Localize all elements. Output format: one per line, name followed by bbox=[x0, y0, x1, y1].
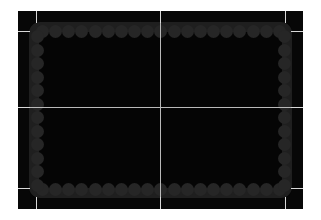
tick-top-left bbox=[36, 11, 37, 23]
simulation-viewport bbox=[0, 0, 321, 220]
tick-left-middle bbox=[18, 107, 30, 108]
tick-top-right bbox=[285, 11, 286, 23]
tick-top-center bbox=[160, 11, 161, 23]
tick-right-top bbox=[291, 31, 303, 32]
tick-left-bottom bbox=[18, 188, 30, 189]
playfield-surface[interactable] bbox=[29, 22, 292, 198]
tick-bottom-right bbox=[285, 197, 286, 209]
tick-left-top bbox=[18, 31, 30, 32]
tick-right-middle bbox=[291, 107, 303, 108]
tick-bottom-center bbox=[160, 197, 161, 209]
tick-right-bottom bbox=[291, 188, 303, 189]
tick-bottom-left bbox=[36, 197, 37, 209]
